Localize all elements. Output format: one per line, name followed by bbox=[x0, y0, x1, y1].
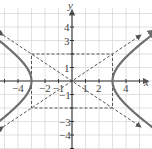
y-tick-label: −1 bbox=[59, 89, 71, 101]
x-tick-label: 1 bbox=[83, 82, 89, 94]
x-tick-label: 4 bbox=[123, 82, 129, 94]
y-tick-label: 1 bbox=[64, 62, 70, 74]
y-tick-label: 3 bbox=[64, 35, 70, 47]
y-tick-label: −3 bbox=[59, 116, 71, 128]
y-axis-label: y bbox=[67, 0, 73, 11]
x-tick-label: −4 bbox=[12, 82, 24, 94]
y-tick-label: −4 bbox=[59, 129, 71, 141]
x-tick-label: −2 bbox=[39, 82, 51, 94]
x-tick-label: 2 bbox=[96, 82, 102, 94]
x-axis-label: x bbox=[143, 76, 149, 88]
y-tick-label: 4 bbox=[64, 21, 70, 33]
hyperbola-chart: −4−2−1124431−1−3−4 x y bbox=[0, 0, 152, 149]
